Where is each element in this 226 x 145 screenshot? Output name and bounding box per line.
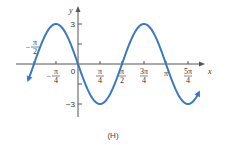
svg-text:4: 4 xyxy=(186,76,190,85)
x-tick-label: π4− xyxy=(47,67,60,85)
svg-text:4: 4 xyxy=(142,76,146,85)
svg-text:π: π xyxy=(33,38,37,47)
svg-text:−: − xyxy=(47,72,52,81)
svg-text:π: π xyxy=(98,67,102,76)
y-axis-arrow-icon xyxy=(76,6,81,12)
svg-text:−: − xyxy=(26,43,31,52)
svg-text:π: π xyxy=(54,67,58,76)
svg-text:4: 4 xyxy=(54,76,58,85)
y-tick-label: 3 xyxy=(71,20,76,29)
x-axis-arrow-icon xyxy=(199,62,205,67)
svg-text:2: 2 xyxy=(120,76,124,85)
y-tick-label: −3 xyxy=(66,100,76,109)
x-tick-label: 5π4 xyxy=(184,67,192,85)
svg-text:5π: 5π xyxy=(184,67,192,76)
x-axis-label: x xyxy=(207,67,212,76)
y-axis-label: y xyxy=(68,6,73,15)
origin-label: 0 xyxy=(71,67,76,76)
x-tick-label: π4 xyxy=(96,67,104,85)
svg-text:3π: 3π xyxy=(140,67,148,76)
chart-canvas: xy π4−π4π23π4π5π4π2−03−3 (H) xyxy=(0,0,226,145)
svg-text:4: 4 xyxy=(98,76,102,85)
figure-caption: (H) xyxy=(107,131,118,140)
x-tick-label: 3π4 xyxy=(140,67,148,85)
